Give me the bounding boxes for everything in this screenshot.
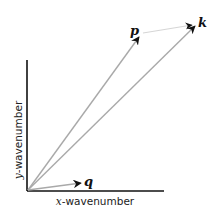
vector-k-arrow — [28, 26, 195, 190]
y-axis-label-rest: -wavenumber — [12, 100, 24, 173]
x-axis-label: x-wavenumber — [56, 195, 135, 207]
wavenumber-vector-diagram: p k q x-wavenumber y-wavenumber — [0, 0, 215, 211]
vector-k-label: k — [198, 15, 207, 30]
x-axis-label-rest: -wavenumber — [62, 195, 135, 207]
vector-p-arrow — [28, 37, 139, 190]
vector-p-label: p — [130, 23, 139, 38]
y-axis-label: y-wavenumber — [12, 100, 24, 180]
vector-q-label: q — [84, 174, 93, 189]
vector-q-arrow — [28, 183, 81, 190]
p-to-k-connector — [143, 25, 192, 33]
